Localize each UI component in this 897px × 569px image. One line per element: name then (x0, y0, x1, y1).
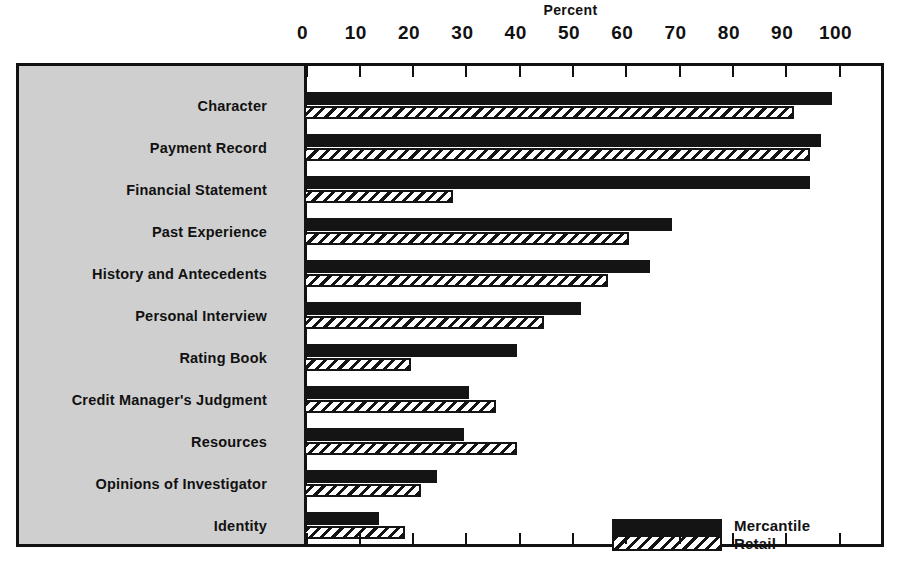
chart-page: Percent 0102030405060708090100 Character… (0, 0, 897, 569)
bar-retail (304, 232, 629, 245)
bar-row: Personal Interview (19, 302, 881, 332)
bar-rows: CharacterPayment RecordFinancial Stateme… (19, 66, 881, 544)
plot-area: CharacterPayment RecordFinancial Stateme… (16, 63, 884, 547)
tick-mark-50 (572, 66, 574, 77)
category-label: Character (0, 98, 267, 114)
x-tick-label-50: 50 (558, 22, 580, 44)
category-label: Credit Manager's Judgment (0, 392, 267, 408)
x-tick-label-40: 40 (505, 22, 527, 44)
x-tick-label-90: 90 (771, 22, 793, 44)
tick-mark-30 (465, 66, 467, 77)
x-axis-tick-labels: 0102030405060708090100 (0, 22, 897, 50)
bar-row: Credit Manager's Judgment (19, 386, 881, 416)
tick-mark-20 (412, 66, 414, 77)
x-tick-label-10: 10 (345, 22, 367, 44)
tick-mark-70 (679, 533, 681, 544)
legend-swatches (612, 519, 722, 551)
bar-mercantile (304, 428, 464, 441)
x-tick-label-30: 30 (451, 22, 473, 44)
bar-retail (304, 316, 544, 329)
bar-row: Financial Statement (19, 176, 881, 206)
tick-mark-0 (306, 533, 308, 544)
bar-row: History and Antecedents (19, 260, 881, 290)
bar-mercantile (304, 218, 672, 231)
legend-labels: Mercantile Retail (734, 517, 810, 553)
bar-row: Character (19, 92, 881, 122)
category-label: Personal Interview (0, 308, 267, 324)
x-tick-label-0: 0 (297, 22, 308, 44)
bar-mercantile (304, 386, 469, 399)
tick-mark-10 (359, 66, 361, 77)
bar-retail (304, 526, 405, 539)
x-tick-label-20: 20 (398, 22, 420, 44)
bar-retail (304, 400, 496, 413)
legend-label-mercantile: Mercantile (734, 517, 810, 535)
tick-mark-100 (839, 533, 841, 544)
tick-mark-100 (839, 66, 841, 77)
bar-mercantile (304, 260, 650, 273)
bar-retail (304, 190, 453, 203)
tick-mark-80 (732, 66, 734, 77)
tick-mark-10 (359, 533, 361, 544)
legend-label-retail: Retail (734, 535, 810, 553)
bar-mercantile (304, 512, 379, 525)
x-tick-label-70: 70 (665, 22, 687, 44)
tick-mark-30 (465, 533, 467, 544)
category-label: History and Antecedents (0, 266, 267, 282)
tick-mark-60 (625, 533, 627, 544)
tick-mark-0 (306, 66, 308, 77)
bar-retail (304, 274, 608, 287)
x-tick-label-60: 60 (611, 22, 633, 44)
bar-mercantile (304, 92, 832, 105)
legend-swatch-retail (612, 535, 722, 551)
category-label: Identity (0, 518, 267, 534)
tick-mark-90 (785, 533, 787, 544)
x-tick-label-80: 80 (718, 22, 740, 44)
bar-row: Rating Book (19, 344, 881, 374)
bar-row: Payment Record (19, 134, 881, 164)
bar-retail (304, 484, 421, 497)
bar-mercantile (304, 134, 821, 147)
bar-retail (304, 442, 517, 455)
legend-swatch-mercantile (612, 519, 722, 535)
category-label: Payment Record (0, 140, 267, 156)
bar-row: Past Experience (19, 218, 881, 248)
tick-mark-90 (785, 66, 787, 77)
tick-mark-40 (519, 533, 521, 544)
bar-row: Opinions of Investigator (19, 470, 881, 500)
axis-title: Percent (304, 2, 837, 18)
tick-mark-50 (572, 533, 574, 544)
category-label: Financial Statement (0, 182, 267, 198)
tick-mark-80 (732, 533, 734, 544)
bar-mercantile (304, 344, 517, 357)
bar-mercantile (304, 176, 810, 189)
bar-retail (304, 106, 794, 119)
category-label: Resources (0, 434, 267, 450)
tick-mark-70 (679, 66, 681, 77)
bar-mercantile (304, 302, 581, 315)
category-label: Past Experience (0, 224, 267, 240)
tick-mark-40 (519, 66, 521, 77)
tick-mark-60 (625, 66, 627, 77)
bar-retail (304, 148, 810, 161)
category-label: Rating Book (0, 350, 267, 366)
tick-mark-20 (412, 533, 414, 544)
category-label: Opinions of Investigator (0, 476, 267, 492)
bar-mercantile (304, 470, 437, 483)
bar-retail (304, 358, 411, 371)
bar-row: Resources (19, 428, 881, 458)
x-tick-label-100: 100 (819, 22, 852, 44)
